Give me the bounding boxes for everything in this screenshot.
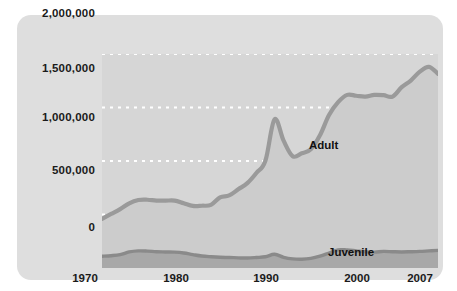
chart-card: 2,000,000 1,500,000 1,000,000 500,000 0 … [17,15,443,280]
adult-series-label: Adult [309,139,338,151]
y-axis-label-500000: 500,000 [0,164,95,176]
x-axis-label-2007: 2007 [400,272,440,284]
x-axis-label-1990: 1990 [246,272,286,284]
y-axis-label-2000000: 2,000,000 [0,7,95,19]
plot-area [102,54,438,268]
x-axis-label-1980: 1980 [156,272,196,284]
y-axis-label-1500000: 1,500,000 [0,62,95,74]
stacked-area-chart [102,54,438,268]
x-axis-label-1970: 1970 [65,272,105,284]
juvenile-series-label: Juvenile [328,246,374,258]
x-axis-label-2000: 2000 [337,272,377,284]
y-axis-label-0: 0 [0,221,95,233]
y-axis-label-1000000: 1,000,000 [0,111,95,123]
